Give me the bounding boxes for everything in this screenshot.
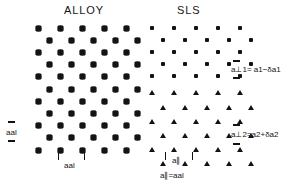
lattice-point: [78, 98, 85, 105]
lattice-point: [248, 161, 254, 166]
lattice-point: [193, 119, 199, 124]
lattice-point: [122, 49, 129, 56]
lattice-point: [160, 161, 166, 166]
lattice-point: [100, 49, 107, 56]
lattice-point: [34, 73, 41, 80]
lattice-point: [133, 85, 140, 92]
lattice-point: [238, 50, 242, 54]
lattice-point: [227, 38, 231, 42]
lattice-point: [150, 74, 154, 78]
lattice-point: [133, 61, 140, 68]
annotation-a-perp-1: a⊥1= a1−δa1: [231, 66, 281, 74]
lattice-point: [215, 119, 221, 124]
annotation-a-al-vertical: aal: [6, 129, 17, 137]
lattice-point: [150, 50, 154, 54]
lattice-point: [67, 134, 74, 141]
lattice-point: [67, 85, 74, 92]
lattice-point: [194, 74, 198, 78]
tick-a-al-left: [58, 152, 59, 160]
lattice-point: [56, 122, 63, 129]
lattice-point: [67, 37, 74, 44]
lattice-point: [161, 38, 165, 42]
lattice-point: [149, 147, 155, 152]
lattice-point: [78, 24, 85, 31]
panel-title-alloy: ALLOY: [64, 4, 104, 16]
lattice-point: [111, 61, 118, 68]
lattice-comparison-figure: ALLOY SLS a⊥1= a1−δa1 a⊥2=a2+δa2 aal aal…: [0, 0, 293, 188]
lattice-point: [34, 98, 41, 105]
tick-a-al-right: [84, 152, 85, 160]
tick-a-parallel-left: [165, 152, 166, 160]
lattice-point: [133, 134, 140, 141]
tick-a-parallel-right: [192, 152, 193, 160]
lattice-point: [149, 119, 155, 124]
tick-a-al-top: [8, 121, 15, 123]
lattice-point: [100, 73, 107, 80]
lattice-point: [149, 90, 155, 95]
annotation-a-al-horizontal: aal: [64, 162, 75, 170]
lattice-point: [182, 133, 188, 138]
lattice-point: [204, 105, 210, 110]
lattice-point: [237, 147, 243, 152]
lattice-point: [100, 98, 107, 105]
lattice-point: [237, 90, 243, 95]
lattice-point: [122, 24, 129, 31]
lattice-point: [226, 105, 232, 110]
lattice-point: [89, 85, 96, 92]
lattice-point: [182, 105, 188, 110]
lattice-point: [111, 85, 118, 92]
lattice-point: [100, 24, 107, 31]
lattice-point: [172, 50, 176, 54]
annotation-a-parallel-equation: a∥=aal: [160, 172, 184, 180]
lattice-point: [133, 37, 140, 44]
tick-a-perp-1-top: [233, 60, 240, 62]
lattice-point: [171, 119, 177, 124]
panel-title-sls: SLS: [177, 4, 201, 16]
lattice-point: [171, 90, 177, 95]
lattice-point: [100, 146, 107, 153]
lattice-point: [56, 98, 63, 105]
lattice-point: [193, 147, 199, 152]
lattice-point: [67, 61, 74, 68]
lattice-point: [183, 62, 187, 66]
lattice-point: [78, 49, 85, 56]
lattice-point: [45, 110, 52, 117]
lattice-point: [34, 24, 41, 31]
lattice-point: [111, 134, 118, 141]
lattice-point: [89, 37, 96, 44]
tick-a-perp-1-bottom: [233, 77, 240, 79]
lattice-point: [34, 49, 41, 56]
lattice-point: [160, 105, 166, 110]
lattice-point: [78, 73, 85, 80]
lattice-point: [111, 37, 118, 44]
lattice-point: [56, 24, 63, 31]
lattice-point: [216, 74, 220, 78]
lattice-point: [248, 105, 254, 110]
lattice-point: [122, 98, 129, 105]
lattice-point: [89, 134, 96, 141]
lattice-point: [216, 50, 220, 54]
lattice-point: [249, 38, 253, 42]
lattice-point: [122, 73, 129, 80]
lattice-point: [215, 147, 221, 152]
annotation-a-parallel: a∥: [172, 157, 180, 165]
lattice-point: [193, 90, 199, 95]
lattice-point: [150, 26, 154, 30]
lattice-point: [122, 122, 129, 129]
lattice-point: [215, 90, 221, 95]
lattice-point: [45, 85, 52, 92]
lattice-point: [171, 147, 177, 152]
lattice-point: [34, 146, 41, 153]
lattice-point: [89, 61, 96, 68]
lattice-point: [172, 74, 176, 78]
lattice-point: [111, 110, 118, 117]
lattice-point: [122, 146, 129, 153]
tick-a-perp-2-top: [233, 124, 240, 126]
lattice-point: [183, 38, 187, 42]
lattice-point: [194, 26, 198, 30]
annotation-a-perp-2: a⊥2=a2+δa2: [231, 131, 279, 139]
lattice-point: [194, 50, 198, 54]
lattice-point: [34, 122, 41, 129]
lattice-point: [204, 161, 210, 166]
lattice-point: [160, 133, 166, 138]
